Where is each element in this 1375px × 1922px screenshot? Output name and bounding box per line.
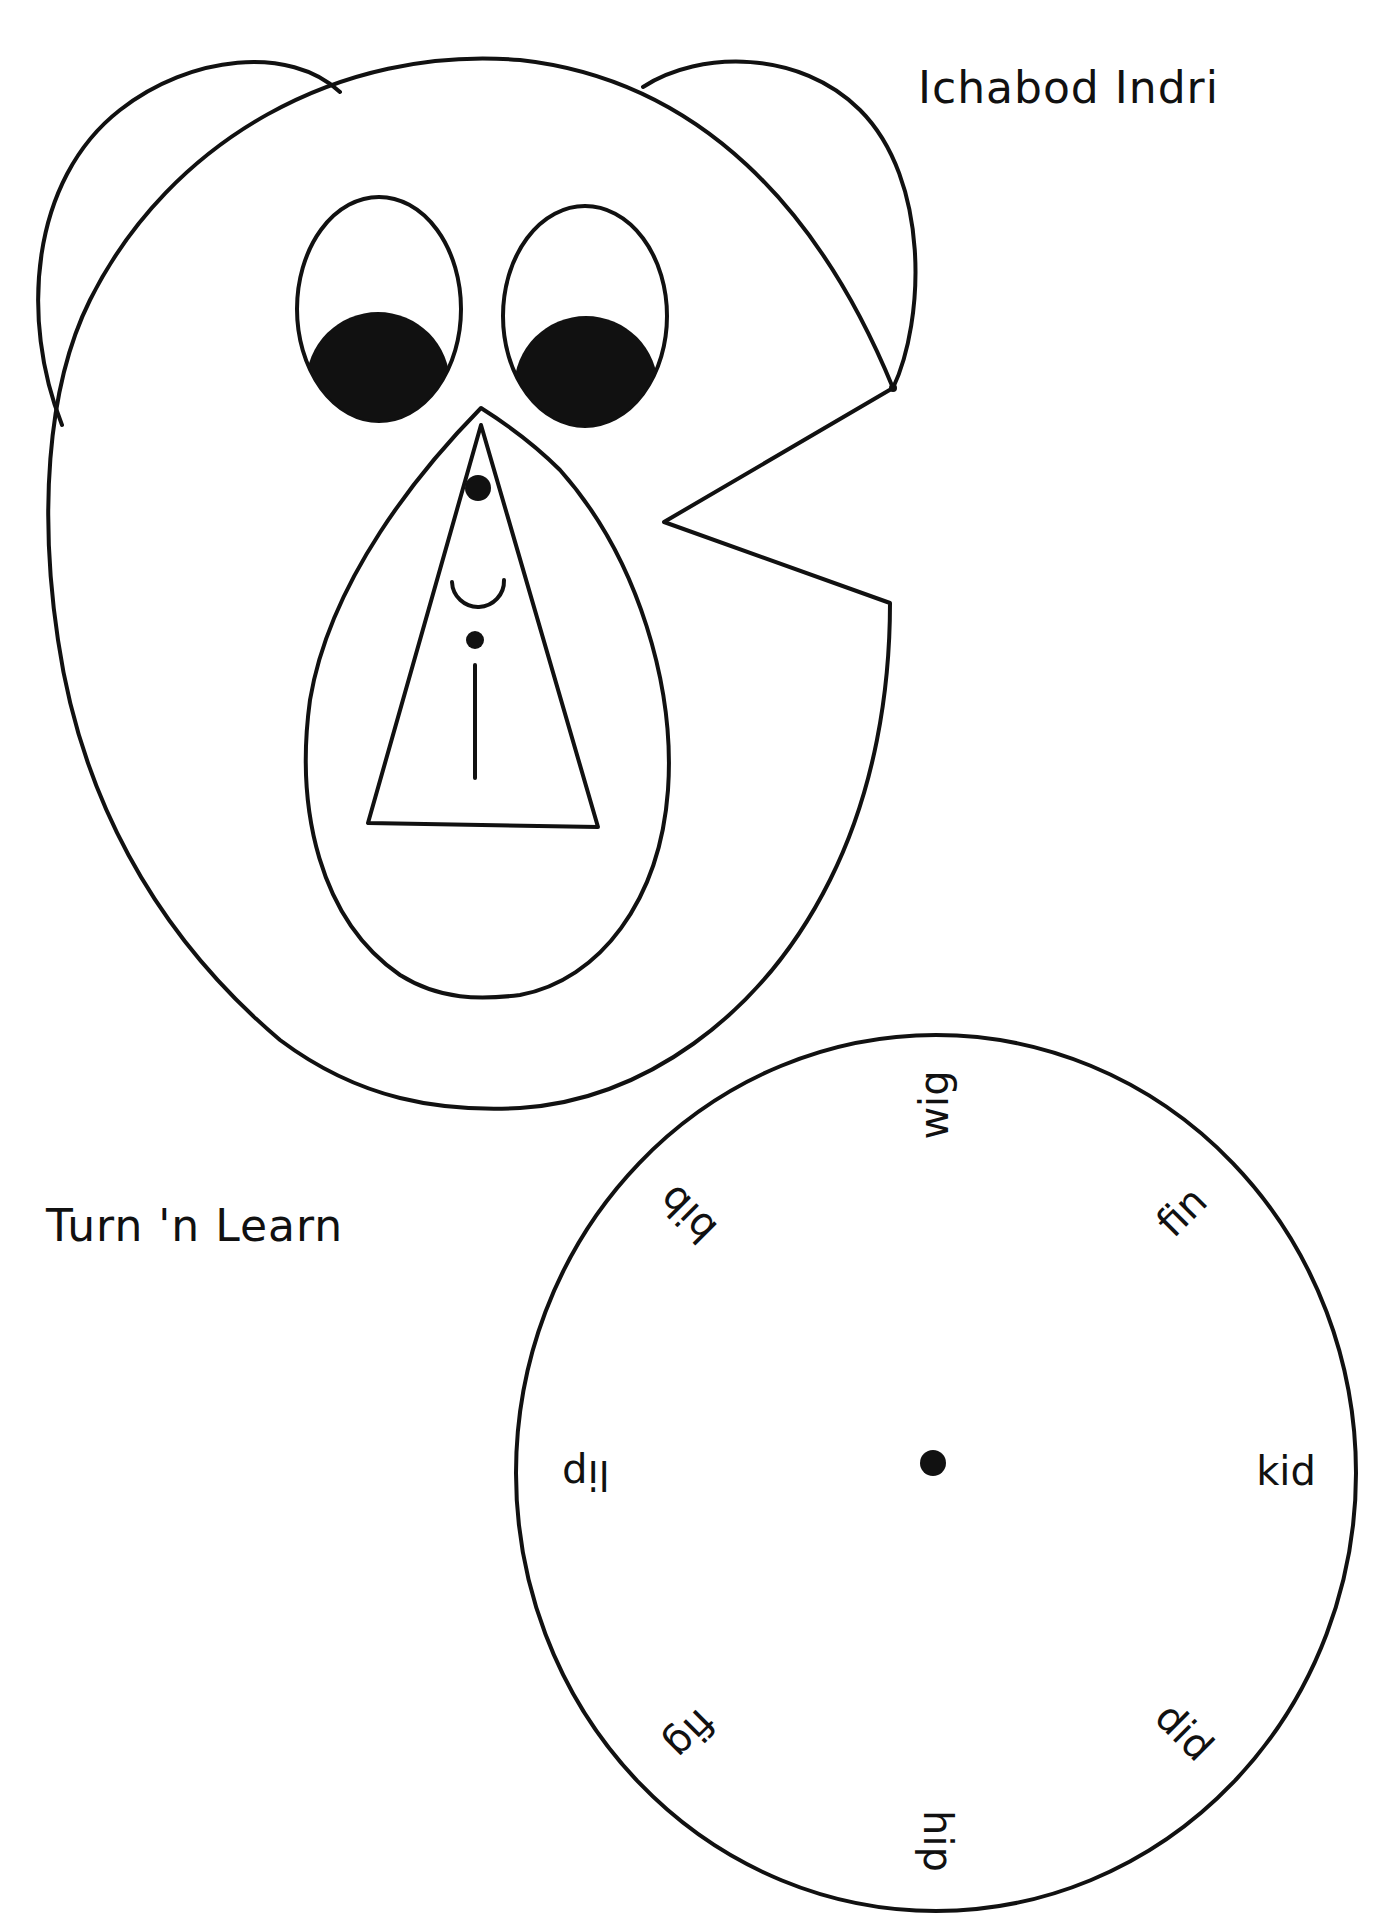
head-outline [48, 58, 893, 1108]
left-ear [38, 62, 340, 425]
smile-arc [452, 580, 504, 607]
activity-title: Turn 'n Learn [46, 1200, 343, 1251]
wheel-word-kid: kid [1236, 1451, 1336, 1495]
wheel-pivot-dot [920, 1450, 946, 1476]
left-pupil [306, 312, 450, 456]
worksheet-page: Ichabod Indri Turn 'n Learn kiddidhipfig… [0, 0, 1375, 1922]
right-pupil [514, 316, 658, 460]
page-title: Ichabod Indri [918, 62, 1219, 113]
nose-dot [465, 475, 491, 501]
right-ear [643, 62, 915, 388]
i-dot [466, 631, 484, 649]
ear-junction-dot [889, 384, 897, 392]
indri-face-drawing [0, 0, 1375, 1922]
wheel-word-hip: hip [914, 1791, 958, 1891]
wheel-word-wig: wig [914, 1055, 958, 1155]
wheel-word-lip: lip [536, 1451, 636, 1495]
